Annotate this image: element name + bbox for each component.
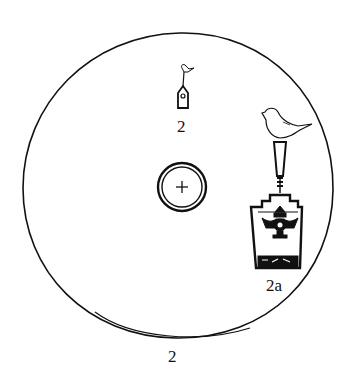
figure-caption: 2 [168, 348, 177, 365]
small-ornament-icon [178, 65, 194, 108]
center-ring-icon [158, 163, 206, 211]
small-ornament-label: 2 [177, 118, 186, 135]
diagram-canvas [0, 0, 355, 376]
disc-outline [23, 33, 333, 338]
large-ornament-icon [251, 108, 312, 268]
large-ornament-label: 2a [266, 277, 282, 294]
